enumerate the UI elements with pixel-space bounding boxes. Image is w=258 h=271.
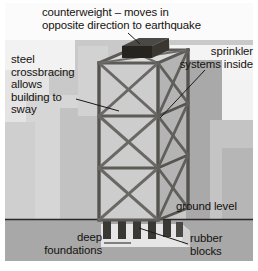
label-steel-crossbracing: steel crossbracing allows building to sw… bbox=[11, 53, 74, 116]
label-sprinkler-systems: sprinkler systems inside bbox=[180, 45, 253, 70]
rubber-block bbox=[103, 220, 111, 239]
rubber-block bbox=[176, 222, 183, 237]
label-rubber-blocks: rubber blocks bbox=[190, 232, 222, 257]
rubber-block bbox=[148, 220, 156, 239]
earthquake-building-diagram: counterweight – moves in opposite direct… bbox=[0, 0, 258, 271]
counterweight-front-face bbox=[122, 46, 152, 58]
tower bbox=[99, 50, 188, 220]
backdrop-building-9 bbox=[222, 80, 253, 120]
backdrop-building-5 bbox=[60, 108, 100, 219]
scene bbox=[5, 3, 254, 261]
backdrop-building-4 bbox=[5, 122, 35, 219]
label-deep-foundations: deep foundations bbox=[24, 231, 102, 256]
label-ground-level: ground level bbox=[176, 200, 237, 213]
rubber-block bbox=[133, 220, 141, 239]
rubber-block bbox=[118, 220, 126, 239]
rubber-block bbox=[163, 220, 171, 237]
label-counterweight: counterweight – moves in opposite direct… bbox=[42, 6, 201, 31]
